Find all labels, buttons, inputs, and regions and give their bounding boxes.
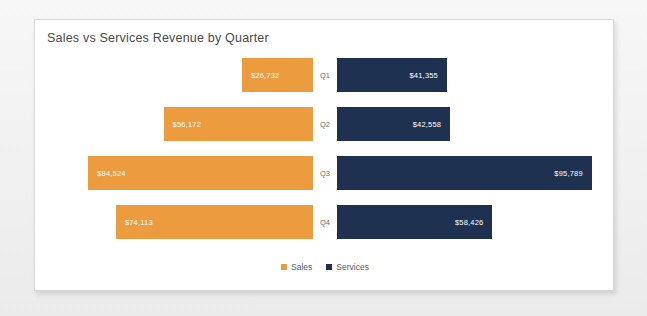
chart-row-q3: $84,524 Q3 $95,789	[35, 156, 615, 190]
bar-sales-q4[interactable]: $74,113	[116, 205, 313, 239]
legend-label-services: Services	[336, 262, 369, 272]
chart-card: Sales vs Services Revenue by Quarter $26…	[34, 19, 614, 291]
bar-services-q4[interactable]: $58,426	[337, 205, 492, 239]
bar-sales-q1[interactable]: $26,732	[242, 58, 313, 92]
bar-label-services-q4: $58,426	[455, 218, 484, 227]
chart-row-q2: $56,172 Q2 $42,558	[35, 107, 615, 141]
legend-swatch-sales-icon	[281, 264, 287, 270]
left-side-q4: $74,113	[35, 205, 313, 239]
bar-sales-q3[interactable]: $84,524	[88, 156, 313, 190]
bar-label-sales-q3: $84,524	[97, 169, 126, 178]
category-label-q2: Q2	[313, 120, 337, 129]
chart-title: Sales vs Services Revenue by Quarter	[47, 31, 269, 45]
left-side-q2: $56,172	[35, 107, 313, 141]
category-label-q4: Q4	[313, 218, 337, 227]
bar-label-sales-q1: $26,732	[251, 71, 280, 80]
right-side-q1: $41,355	[337, 58, 615, 92]
bar-sales-q2[interactable]: $56,172	[164, 107, 313, 141]
bar-label-sales-q4: $74,113	[125, 218, 153, 227]
right-side-q3: $95,789	[337, 156, 615, 190]
bar-label-services-q3: $95,789	[554, 169, 583, 178]
chart-row-q1: $26,732 Q1 $41,355	[35, 58, 615, 92]
legend-label-sales: Sales	[291, 262, 312, 272]
bar-services-q2[interactable]: $42,558	[337, 107, 450, 141]
left-side-q1: $26,732	[35, 58, 313, 92]
right-side-q2: $42,558	[337, 107, 615, 141]
category-label-q3: Q3	[313, 169, 337, 178]
left-side-q3: $84,524	[35, 156, 313, 190]
bar-services-q1[interactable]: $41,355	[337, 58, 447, 92]
chart-plot-area: $26,732 Q1 $41,355 $56,172 Q2	[35, 58, 615, 254]
right-side-q4: $58,426	[337, 205, 615, 239]
bar-label-services-q1: $41,355	[409, 71, 438, 80]
screenshot-root: Sales vs Services Revenue by Quarter $26…	[0, 0, 647, 316]
legend-swatch-services-icon	[326, 264, 332, 270]
bar-services-q3[interactable]: $95,789	[337, 156, 592, 190]
chart-row-q4: $74,113 Q4 $58,426	[35, 205, 615, 239]
bar-label-sales-q2: $56,172	[173, 120, 202, 129]
category-label-q1: Q1	[313, 71, 337, 80]
legend-item-sales[interactable]: Sales	[281, 262, 312, 272]
bar-label-services-q2: $42,558	[413, 120, 442, 129]
legend-item-services[interactable]: Services	[326, 262, 369, 272]
chart-legend: Sales Services	[35, 262, 615, 272]
